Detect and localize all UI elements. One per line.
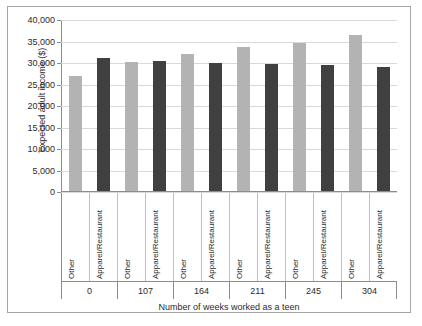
- bar: [293, 43, 306, 191]
- group-label: 304: [341, 282, 397, 299]
- y-tick-label: 15,000: [27, 123, 55, 133]
- y-tick-mark: [57, 20, 61, 21]
- bar: [181, 54, 194, 191]
- category-label-cell: Other: [117, 193, 145, 281]
- y-gridline: [61, 20, 397, 21]
- y-tick-label: 10,000: [27, 144, 55, 154]
- y-gridline: [61, 85, 397, 86]
- category-label: Apparel/Restaurant: [207, 210, 216, 279]
- category-label: Other: [67, 259, 76, 279]
- bar: [209, 63, 222, 191]
- y-tick-label: 25,000: [27, 80, 55, 90]
- category-label-cell: Apparel/Restaurant: [257, 193, 285, 281]
- y-tick-label: 0: [50, 187, 55, 197]
- category-label: Other: [347, 259, 356, 279]
- category-label-cell: Apparel/Restaurant: [201, 193, 229, 281]
- group-label: 0: [61, 282, 117, 299]
- y-tick-mark: [57, 149, 61, 150]
- group-label: 211: [229, 282, 285, 299]
- y-tick-label: 40,000: [27, 15, 55, 25]
- y-tick-label: 5,000: [32, 166, 55, 176]
- category-label: Apparel/Restaurant: [95, 210, 104, 279]
- bar: [153, 61, 166, 191]
- y-tick-mark: [57, 42, 61, 43]
- y-tick-label: 20,000: [27, 101, 55, 111]
- category-label-cell: Apparel/Restaurant: [89, 193, 117, 281]
- bar: [237, 47, 250, 191]
- category-label: Other: [123, 259, 132, 279]
- x-axis-title: Number of weeks worked as a teen: [61, 302, 397, 312]
- category-label: Other: [235, 259, 244, 279]
- bar: [265, 64, 278, 191]
- category-label-cell: Other: [285, 193, 313, 281]
- y-tick-mark: [57, 106, 61, 107]
- y-tick-mark: [57, 171, 61, 172]
- bar: [377, 67, 390, 191]
- group-label-band: 0107164211245304: [61, 281, 397, 299]
- y-tick-mark: [57, 63, 61, 64]
- bar: [125, 62, 138, 191]
- y-gridline: [61, 63, 397, 64]
- category-label-cell: Apparel/Restaurant: [313, 193, 341, 281]
- y-gridline: [61, 106, 397, 107]
- bar: [97, 58, 110, 191]
- y-tick-mark: [57, 85, 61, 86]
- y-gridline: [61, 42, 397, 43]
- category-label: Apparel/Restaurant: [263, 210, 272, 279]
- category-label-cell: Apparel/Restaurant: [369, 193, 397, 281]
- category-label: Other: [179, 259, 188, 279]
- y-gridline: [61, 128, 397, 129]
- y-gridline: [61, 149, 397, 150]
- category-label: Apparel/Restaurant: [319, 210, 328, 279]
- y-tick-label: 35,000: [27, 37, 55, 47]
- category-label: Other: [291, 259, 300, 279]
- category-label-cell: Other: [341, 193, 369, 281]
- bar: [69, 76, 82, 191]
- group-label: 107: [117, 282, 173, 299]
- bar: [349, 35, 362, 191]
- category-label: Apparel/Restaurant: [151, 210, 160, 279]
- y-gridline: [61, 171, 397, 172]
- plot-area: 05,00010,00015,00020,00025,00030,00035,0…: [61, 20, 397, 192]
- category-label-cell: Apparel/Restaurant: [145, 193, 173, 281]
- category-label-cell: Other: [173, 193, 201, 281]
- category-label: Apparel/Restaurant: [375, 210, 384, 279]
- group-label: 164: [173, 282, 229, 299]
- category-label-band: OtherApparel/RestaurantOtherApparel/Rest…: [61, 193, 397, 281]
- category-label-cell: Other: [61, 193, 89, 281]
- y-tick-mark: [57, 128, 61, 129]
- group-label: 245: [285, 282, 341, 299]
- category-label-cell: Other: [229, 193, 257, 281]
- bar: [321, 65, 334, 191]
- y-tick-label: 30,000: [27, 58, 55, 68]
- chart-container: Expected adult income ($) 05,00010,00015…: [7, 6, 411, 313]
